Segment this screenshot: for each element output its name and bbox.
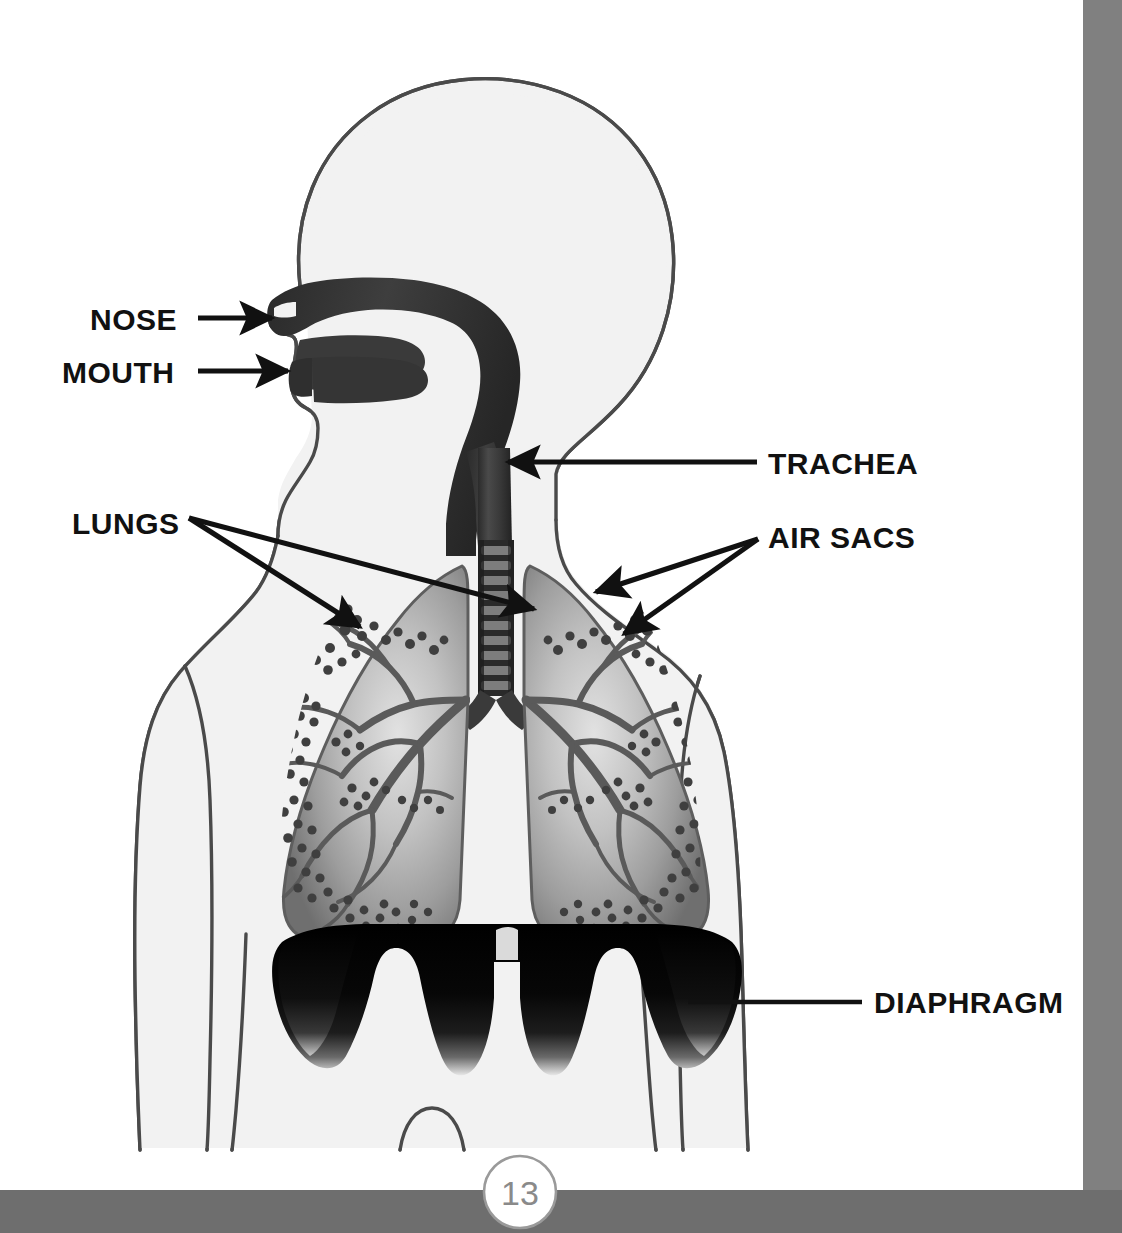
label-nose: NOSE [90, 303, 177, 336]
respiratory-system-diagram: NOSE MOUTH TRACHEA LUNGS AIR SACS DIAPHR… [0, 0, 1122, 1233]
diaphragm-central-notch [496, 927, 518, 960]
label-mouth: MOUTH [62, 356, 174, 389]
label-air-sacs: AIR SACS [768, 521, 915, 554]
page-number-badge: 13 [484, 1156, 556, 1228]
page-canvas: NOSE MOUTH TRACHEA LUNGS AIR SACS DIAPHR… [0, 0, 1122, 1233]
label-diaphragm: DIAPHRAGM [874, 986, 1064, 1019]
label-lungs: LUNGS [72, 507, 180, 540]
oral-cavity [312, 357, 428, 404]
trachea-cartilage-rings [478, 540, 514, 696]
trachea-upper [478, 448, 512, 546]
bottom-right-corner-bar [1083, 1190, 1122, 1233]
right-margin-bar [1083, 0, 1122, 1233]
mouth-opening [289, 358, 312, 397]
page-number-text: 13 [501, 1174, 539, 1212]
label-trachea: TRACHEA [768, 447, 918, 480]
